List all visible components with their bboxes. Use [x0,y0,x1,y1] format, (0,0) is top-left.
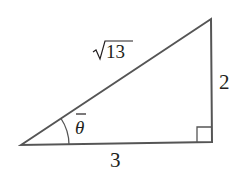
triangle [21,19,212,145]
right-triangle-diagram: 13 2 3 θ [0,0,245,173]
right-angle-marker [197,127,212,142]
opposite-side-label: 2 [219,70,230,94]
hypotenuse-value: 13 [106,41,125,62]
hypotenuse-label: 13 [93,41,133,62]
theta-symbol: θ [75,117,84,138]
angle-label: θ [75,114,86,138]
angle-arc [61,119,69,145]
adjacent-side-label: 3 [110,148,121,172]
